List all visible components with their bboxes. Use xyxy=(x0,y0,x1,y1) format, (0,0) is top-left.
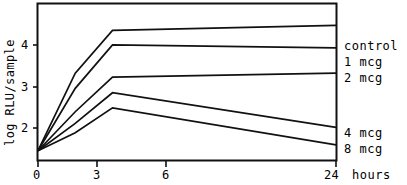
x-axis-units-label: hours xyxy=(352,168,391,182)
series-label-control: control xyxy=(344,39,398,53)
y-tick-label-3: 3 xyxy=(21,80,29,94)
series-line-8-mcg xyxy=(38,108,336,151)
x-axis-ticks xyxy=(38,161,336,167)
series-label-2-mcg: 2 mcg xyxy=(344,71,383,85)
series-label-8-mcg: 8 mcg xyxy=(344,142,383,156)
series-line-control xyxy=(38,25,336,150)
x-tick-label-6: 6 xyxy=(162,168,170,182)
x-tick-label-0: 0 xyxy=(33,168,41,182)
series-line-4-mcg xyxy=(38,93,336,151)
y-tick-label-4: 4 xyxy=(21,38,29,52)
x-tick-label-3: 3 xyxy=(93,168,101,182)
y-tick-label-2: 2 xyxy=(21,121,29,135)
data-series-group xyxy=(38,25,336,150)
x-tick-label-24: 24 xyxy=(324,168,339,182)
series-label-4-mcg: 4 mcg xyxy=(344,126,383,140)
series-line-1-mcg xyxy=(38,45,336,151)
series-label-1-mcg: 1 mcg xyxy=(344,55,383,69)
chart-plot-area xyxy=(0,0,407,185)
series-line-2-mcg xyxy=(38,73,336,151)
chart-figure: log RLU/sample 4 3 2 0 3 6 xyxy=(0,0,407,185)
